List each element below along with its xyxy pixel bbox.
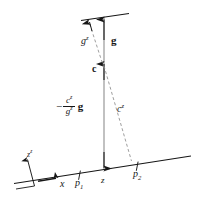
label-point-p2-sub: 2: [138, 174, 141, 181]
label-g-component-sup: z: [86, 34, 89, 41]
fraction-vector-g: g: [78, 100, 84, 112]
label-c-component: cz: [117, 104, 124, 114]
top-bar: [81, 14, 129, 21]
fraction-numerator: cz: [65, 96, 73, 105]
label-point-p1-sub: 1: [80, 183, 83, 190]
frame-axis-base: [16, 186, 35, 189]
frame-axis-arrow: [28, 160, 35, 187]
label-point-p1: p1: [75, 178, 83, 188]
label-c-vector: c: [92, 64, 96, 74]
figure-diagram: g gz c cz − cz gz g x z p1 p2 zz: [0, 0, 200, 202]
fraction-stack: cz gz: [63, 96, 75, 117]
fraction-denominator: gz: [65, 107, 74, 116]
label-axis-z: z: [101, 176, 105, 185]
label-c-component-sup: z: [121, 102, 124, 109]
fraction-minus-sign: −: [56, 100, 62, 112]
g-component-arrow: [90, 22, 93, 31]
fraction-denominator-sup: z: [70, 105, 72, 111]
label-fraction-expression: − cz gz g: [56, 96, 83, 117]
fraction-numerator-sup: z: [70, 94, 72, 100]
label-g-vector: g: [111, 35, 117, 46]
label-frame-axis-z-sup: z: [30, 148, 32, 154]
label-point-p2: p2: [133, 169, 141, 179]
label-g-component: gz: [81, 36, 89, 46]
frame-axis-group: [16, 160, 35, 190]
label-axis-x: x: [60, 179, 64, 189]
label-frame-axis-z: zz: [27, 151, 32, 159]
g-component-dashed-group: [90, 22, 105, 68]
diagram-canvas: [0, 0, 200, 202]
